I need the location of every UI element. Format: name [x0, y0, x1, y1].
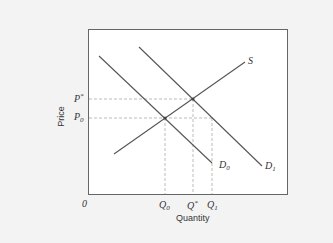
- x-axis-title: Quantity: [176, 214, 210, 223]
- curve-label-d1: D1: [265, 161, 276, 173]
- plot-frame: [89, 30, 288, 195]
- equilibrium-point-e0: [163, 116, 166, 119]
- y-axis-title: Price: [57, 106, 66, 127]
- price-label-p-star: P*: [74, 93, 84, 104]
- curve-label-d0: D0: [219, 160, 230, 172]
- quantity-label-q0: Q0: [159, 200, 170, 212]
- quantity-label-q1: Q1: [207, 200, 218, 212]
- equilibrium-point-e-star: [191, 97, 194, 100]
- origin-label: 0: [82, 199, 87, 209]
- curve-label-s: S: [248, 56, 253, 66]
- quantity-label-q-star: Q*: [187, 200, 198, 211]
- price-label-p0: P0: [74, 112, 84, 124]
